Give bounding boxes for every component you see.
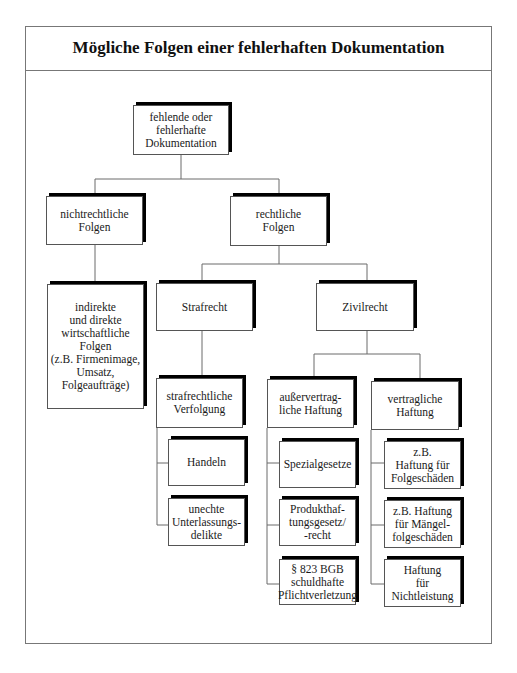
node-legal-consequences: rechtliche Folgen bbox=[230, 196, 327, 246]
node-acting: Handeln bbox=[168, 439, 245, 486]
node-label: unechte Unterlassungs- delikte bbox=[172, 503, 241, 542]
node-criminal-prosecution: strafrechtliche Verfolgung bbox=[156, 378, 243, 428]
node-label: vertragliche Haftung bbox=[388, 393, 443, 419]
node-consequential-damage: z.B. Haftung für Folgeschäden bbox=[384, 441, 461, 489]
node-label: Handeln bbox=[187, 456, 226, 469]
node-label: strafrechtliche Verfolgung bbox=[167, 390, 233, 416]
node-economic-consequences: indirekte und direkte wirtschaftliche Fo… bbox=[47, 284, 144, 409]
node-bgb-823: § 823 BGB schuldhafte Pflichtverletzung bbox=[279, 559, 356, 605]
node-label: Produkthaf- tungsgesetz/ -recht bbox=[289, 503, 346, 542]
node-root: fehlende oder fehlerhafte Dokumentation bbox=[133, 105, 229, 155]
node-product-liability: Produkthaf- tungsgesetz/ -recht bbox=[279, 499, 356, 546]
node-label: rechtliche Folgen bbox=[256, 208, 301, 234]
node-label: Strafrecht bbox=[182, 301, 227, 314]
node-tort-liability: außervertrag- liche Haftung bbox=[267, 379, 354, 428]
node-contract-liability: vertragliche Haftung bbox=[371, 381, 459, 430]
node-label: indirekte und direkte wirtschaftliche Fo… bbox=[51, 301, 140, 392]
node-non-legal-consequences: nichtrechtliche Folgen bbox=[46, 196, 143, 245]
node-label: Haftung für Nichtleistung bbox=[392, 564, 454, 603]
node-label: Zivilrecht bbox=[342, 301, 387, 314]
node-label: z.B. Haftung für Folgeschäden bbox=[391, 446, 454, 485]
node-criminal-law: Strafrecht bbox=[156, 283, 253, 331]
node-non-performance: Haftung für Nichtleistung bbox=[384, 559, 461, 607]
node-label: fehlende oder fehlerhafte Dokumentation bbox=[145, 111, 217, 150]
node-label: § 823 BGB schuldhafte Pflichtverletzung bbox=[278, 563, 357, 602]
node-special-laws: Spezialgesetze bbox=[279, 441, 356, 488]
node-label: Spezialgesetze bbox=[284, 458, 352, 471]
node-defect-consequential-damage: z.B. Haftung für Mängel- folgeschäden bbox=[384, 500, 461, 548]
node-omission-offences: unechte Unterlassungs- delikte bbox=[168, 498, 245, 546]
node-civil-law: Zivilrecht bbox=[316, 283, 414, 331]
node-label: z.B. Haftung für Mängel- folgeschäden bbox=[392, 505, 453, 544]
node-label: außervertrag- liche Haftung bbox=[279, 391, 342, 417]
node-label: nichtrechtliche Folgen bbox=[60, 208, 128, 234]
